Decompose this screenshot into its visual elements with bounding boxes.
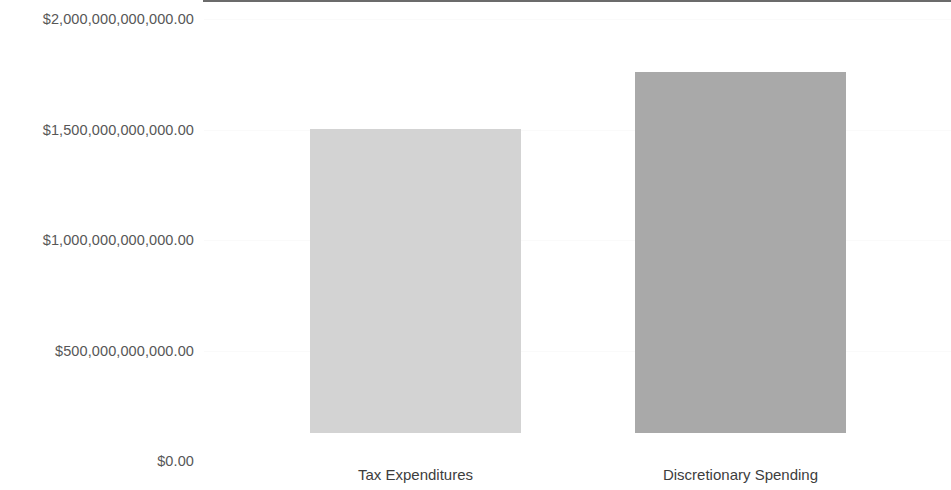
x-axis-label-discretionary-spending: Discretionary Spending xyxy=(635,466,846,483)
bar-chart: $0.00$500,000,000,000.00$1,000,000,000,0… xyxy=(0,0,951,490)
x-axis-label-tax-expenditures: Tax Expenditures xyxy=(310,466,521,483)
bar-tax-expenditures[interactable] xyxy=(310,129,521,433)
x-axis-line xyxy=(203,0,951,2)
plot-area xyxy=(0,0,951,462)
bar-discretionary-spending[interactable] xyxy=(635,72,846,433)
